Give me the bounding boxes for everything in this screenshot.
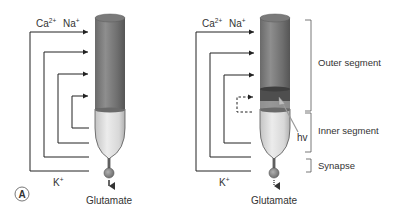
photoreceptor-diagram: Ca2+ Na+ K+ Glutamate A Ca2 bbox=[0, 0, 393, 215]
right-inner-segment bbox=[260, 109, 290, 168]
segment-brackets bbox=[305, 20, 311, 172]
left-inner-segment bbox=[95, 109, 125, 168]
left-k-label: K+ bbox=[53, 176, 64, 188]
left-outer-segment-top bbox=[95, 14, 125, 22]
left-glutamate-label: Glutamate bbox=[86, 195, 133, 206]
left-photoreceptor: Ca2+ Na+ K+ Glutamate bbox=[30, 14, 133, 206]
left-na-label: Na+ bbox=[63, 17, 80, 29]
synapse-bracket bbox=[306, 159, 311, 172]
right-outer-segment-top bbox=[260, 14, 290, 22]
right-glutamate-label: Glutamate bbox=[251, 195, 298, 206]
right-photoreceptor: Ca2+ Na+ K+ hv Glutamate bbox=[196, 14, 308, 206]
right-loop-2 bbox=[210, 53, 254, 157]
left-current-loops bbox=[30, 32, 89, 171]
outer-segment-label: Outer segment bbox=[318, 57, 381, 68]
inner-segment-label: Inner segment bbox=[318, 125, 379, 136]
right-ca-label: Ca2+ bbox=[202, 17, 222, 29]
panel-label: A bbox=[15, 187, 29, 201]
outer-segment-bracket bbox=[305, 20, 311, 111]
left-synapse-terminal bbox=[104, 168, 114, 178]
left-outer-segment bbox=[95, 18, 125, 110]
right-na-label: Na+ bbox=[229, 17, 246, 29]
right-loop-4-dashed bbox=[237, 97, 253, 112]
right-loop-3 bbox=[224, 75, 254, 143]
right-current-loops bbox=[196, 32, 254, 171]
synapse-label: Synapse bbox=[318, 160, 355, 171]
left-ca-label: Ca2+ bbox=[36, 17, 56, 29]
left-loop-2 bbox=[44, 52, 89, 157]
svg-text:A: A bbox=[18, 189, 25, 200]
left-loop-3 bbox=[58, 74, 89, 143]
right-synapse-terminal bbox=[269, 168, 279, 178]
right-k-label: K+ bbox=[219, 176, 230, 188]
left-loop-4 bbox=[72, 96, 89, 128]
left-loop-1 bbox=[30, 32, 89, 171]
hv-label: hv bbox=[297, 132, 308, 143]
